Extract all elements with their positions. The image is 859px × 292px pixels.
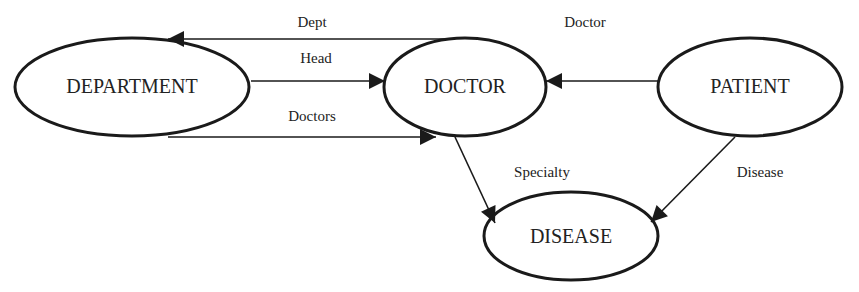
edge-label-dept: Dept xyxy=(297,14,327,30)
edge-label-doctors: Doctors xyxy=(288,108,336,124)
edge-disease: Disease xyxy=(651,137,784,222)
node-department: DEPARTMENT xyxy=(15,38,249,136)
node-disease: DISEASE xyxy=(484,192,658,280)
node-department-label: DEPARTMENT xyxy=(66,75,197,97)
edge-head: Head xyxy=(251,50,385,81)
er-diagram: Dept Head Doctors Doctor Specialty Disea… xyxy=(0,0,859,292)
edge-label-doctor: Doctor xyxy=(564,14,606,30)
node-disease-label: DISEASE xyxy=(530,225,612,247)
node-doctor: DOCTOR xyxy=(384,38,546,136)
edge-label-disease: Disease xyxy=(737,164,784,180)
node-doctor-label: DOCTOR xyxy=(424,75,507,97)
edge-disease-line xyxy=(651,137,735,222)
node-patient: PATIENT xyxy=(658,38,842,136)
edge-dept: Dept xyxy=(168,14,448,39)
edge-label-head: Head xyxy=(300,50,332,66)
node-patient-label: PATIENT xyxy=(710,75,789,97)
edge-specialty-line xyxy=(455,137,495,223)
edge-doctor: Doctor xyxy=(546,14,658,81)
edge-label-specialty: Specialty xyxy=(514,164,570,180)
edge-specialty: Specialty xyxy=(455,137,570,223)
